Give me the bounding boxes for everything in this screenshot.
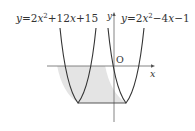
right-equation-label: y=2x2−4x−1 bbox=[120, 12, 190, 24]
graph-canvas: y=2x2+12x+15 y=2x2−4x−1 y x O bbox=[0, 0, 195, 131]
shaded-region bbox=[57, 66, 126, 103]
left-equation-label: y=2x2+12x+15 bbox=[15, 12, 98, 24]
y-axis-arrow-icon bbox=[112, 12, 115, 16]
origin-label: O bbox=[116, 54, 124, 65]
x-axis-label: x bbox=[150, 68, 156, 79]
y-axis-label: y bbox=[106, 11, 113, 21]
